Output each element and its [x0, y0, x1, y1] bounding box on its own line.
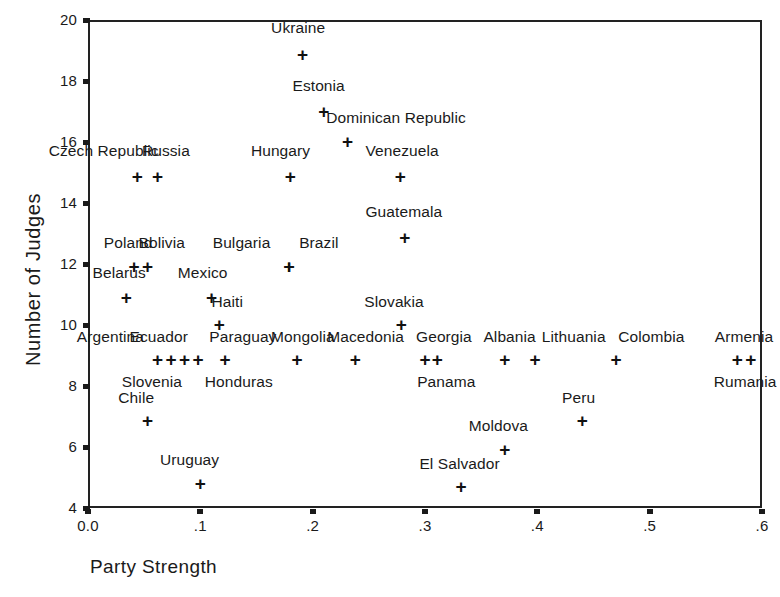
data-point-label: Brazil [299, 234, 338, 252]
plus-marker-icon: + [609, 352, 623, 368]
plus-marker-icon: + [398, 230, 412, 246]
data-point-label: Venezuela [365, 142, 438, 160]
data-point-label: Bolivia [139, 234, 185, 252]
data-point-label: Georgia [416, 328, 472, 346]
data-point-label: El Salvador [419, 455, 499, 473]
x-tick-label: .1 [173, 517, 227, 534]
y-axis-title: Number of Judges [22, 165, 45, 395]
plus-marker-icon: + [130, 169, 144, 185]
data-point-label: Guatemala [365, 203, 442, 221]
x-axis-title: Party Strength [90, 556, 217, 578]
data-point-label: Macedonia [327, 328, 404, 346]
x-tick-label: 0.0 [61, 517, 115, 534]
y-tick-mark [83, 18, 90, 23]
data-point-label: Mexico [178, 264, 228, 282]
data-point-label: Ukraine [271, 19, 325, 37]
plus-marker-icon: + [454, 479, 468, 495]
y-tick-label: 4 [35, 499, 77, 516]
plus-marker-icon: + [498, 442, 512, 458]
data-point-label: Colombia [618, 328, 684, 346]
x-tick-mark [759, 509, 765, 514]
x-tick-mark [647, 509, 653, 514]
y-tick-mark [83, 445, 90, 450]
y-tick-mark [83, 201, 90, 206]
data-point-label: Estonia [292, 77, 344, 95]
data-point-label: Hungary [251, 142, 310, 160]
data-point-label: Moldova [469, 417, 528, 435]
plus-marker-icon: + [528, 352, 542, 368]
plus-marker-icon: + [141, 413, 155, 429]
data-point-label: Haiti [212, 293, 244, 311]
data-point-label: Dominican Republic [326, 109, 466, 127]
y-tick-label: 6 [35, 438, 77, 455]
x-tick-mark [422, 509, 428, 514]
data-point-label: Mongolia [271, 328, 335, 346]
x-tick-mark [197, 509, 203, 514]
plus-marker-icon: + [193, 476, 207, 492]
plus-marker-icon: + [393, 169, 407, 185]
plus-marker-icon: + [296, 47, 310, 63]
data-point-label: Panama [417, 373, 475, 391]
data-point-label: Albania [483, 328, 535, 346]
plus-marker-icon: + [283, 169, 297, 185]
scatter-plot-figure: 468101214161820 0.0.1.2.3.4.5.6 +Ukraine… [0, 0, 780, 597]
y-tick-mark [83, 384, 90, 389]
plus-marker-icon: + [575, 413, 589, 429]
plus-marker-icon: + [498, 352, 512, 368]
data-point-label: Belarus [92, 264, 145, 282]
plus-marker-icon: + [218, 352, 232, 368]
y-tick-mark [83, 262, 90, 267]
data-point-label: Honduras [205, 373, 273, 391]
plus-marker-icon: + [430, 352, 444, 368]
data-point-label: Russia [142, 142, 190, 160]
data-point-label: Peru [562, 389, 595, 407]
plus-marker-icon: + [730, 352, 744, 368]
x-tick-mark [310, 509, 316, 514]
plus-marker-icon: + [290, 352, 304, 368]
y-tick-mark [83, 79, 90, 84]
plus-marker-icon: + [282, 259, 296, 275]
x-tick-mark [534, 509, 540, 514]
plus-marker-icon: + [348, 352, 362, 368]
data-point-label: Armenia [715, 328, 773, 346]
data-point-label: Bulgaria [213, 234, 271, 252]
data-point-label: Rumania [714, 373, 777, 391]
plus-marker-icon: + [340, 134, 354, 150]
plus-marker-icon: + [178, 352, 192, 368]
plus-marker-icon: + [164, 352, 178, 368]
plus-marker-icon: + [191, 352, 205, 368]
x-tick-label: .5 [623, 517, 677, 534]
x-tick-label: .2 [286, 517, 340, 534]
x-tick-label: .6 [735, 517, 780, 534]
plus-marker-icon: + [151, 352, 165, 368]
data-point-label: Lithuania [542, 328, 606, 346]
plus-marker-icon: + [119, 290, 133, 306]
plus-marker-icon: + [151, 169, 165, 185]
y-tick-label: 18 [35, 72, 77, 89]
data-point-label: Slovakia [364, 293, 423, 311]
x-tick-mark [85, 509, 91, 514]
data-point-label: Uruguay [160, 451, 219, 469]
data-point-label: Chile [118, 389, 154, 407]
x-tick-label: .4 [510, 517, 564, 534]
plus-marker-icon: + [744, 352, 758, 368]
data-point-label: Ecuador [130, 328, 188, 346]
data-point-label: Paraguay [209, 328, 276, 346]
y-tick-label: 20 [35, 11, 77, 28]
x-tick-label: .3 [398, 517, 452, 534]
